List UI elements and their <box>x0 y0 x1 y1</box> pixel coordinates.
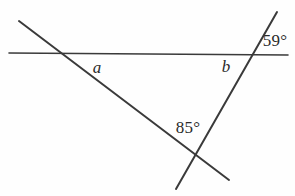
angle-label-b: b <box>222 58 231 75</box>
figure-line-art <box>0 0 295 196</box>
diagonal-line <box>19 21 229 180</box>
angle-label-a: a <box>93 59 102 76</box>
angle-label-59: 59° <box>263 32 287 49</box>
angle-label-85: 85° <box>176 119 200 136</box>
horizontal-line <box>9 53 288 55</box>
geometry-figure: a b 59° 85° <box>0 0 295 196</box>
